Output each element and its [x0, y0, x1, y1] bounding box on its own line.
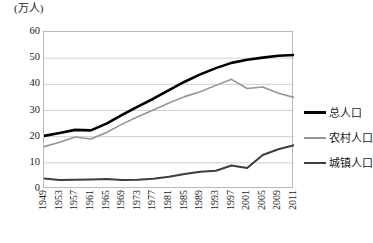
x-axis-tick-label: 1949 — [37, 190, 49, 234]
legend-item[interactable]: 城镇人口 — [304, 150, 366, 175]
series-line-总人口 — [44, 55, 294, 136]
y-axis-unit-label: (万人) — [14, 2, 43, 15]
y-axis-tick-labels: 0102030405060 — [0, 31, 40, 188]
x-axis-tick-label: 1973 — [131, 190, 143, 234]
legend-line-icon — [304, 137, 326, 139]
x-axis-tick-label: 1957 — [68, 190, 80, 234]
x-axis-tick-label: 1985 — [178, 190, 190, 234]
x-axis-tick-label: 1961 — [84, 190, 96, 234]
y-axis-tick-label: 10 — [2, 157, 40, 167]
x-axis-tick-label: 1965 — [100, 190, 112, 234]
y-axis-tick-label: 60 — [2, 26, 40, 36]
gridlines — [44, 58, 294, 163]
chart-legend: 总人口农村人口城镇人口 — [304, 100, 366, 175]
legend-line-icon — [304, 162, 326, 164]
y-axis-tick-label: 0 — [2, 183, 40, 193]
series-lines — [44, 55, 294, 180]
y-axis-tick-label: 30 — [2, 105, 40, 115]
legend-item[interactable]: 总人口 — [304, 100, 366, 125]
legend-line-icon — [304, 111, 326, 114]
x-axis-tick-label: 1953 — [53, 190, 65, 234]
plot-area — [43, 31, 293, 188]
y-axis-tick-label: 20 — [2, 131, 40, 141]
x-axis-tick-label: 2011 — [287, 190, 299, 234]
plot-svg — [44, 32, 294, 189]
x-axis-tick-labels: 1949195319571961196519691973197719811985… — [43, 190, 293, 242]
x-axis-tick-label: 1977 — [146, 190, 158, 234]
legend-item-label: 农村人口 — [329, 132, 373, 144]
x-axis-tick-label: 2001 — [240, 190, 252, 234]
x-axis-tick-label: 1969 — [115, 190, 127, 234]
x-axis-tick-label: 1981 — [162, 190, 174, 234]
x-axis-tick-label: 2009 — [271, 190, 283, 234]
x-axis-tick-label: 1997 — [225, 190, 237, 234]
legend-item-label: 城镇人口 — [329, 157, 373, 169]
x-axis-tick-label: 1989 — [193, 190, 205, 234]
x-axis-tick-label: 2005 — [256, 190, 268, 234]
legend-item[interactable]: 农村人口 — [304, 125, 366, 150]
legend-item-label: 总人口 — [329, 107, 362, 119]
y-axis-tick-label: 40 — [2, 78, 40, 88]
x-axis-tick-label: 1993 — [209, 190, 221, 234]
y-axis-tick-label: 50 — [2, 52, 40, 62]
